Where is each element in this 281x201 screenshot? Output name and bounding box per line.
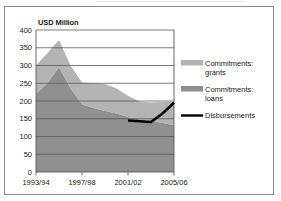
chart-plot: 0501001502002503003504001993/941997/9820… <box>0 0 281 201</box>
legend-item-0: Commitments:grants <box>181 59 253 77</box>
ytick-label-400: 400 <box>19 26 32 35</box>
ytick-label-250: 250 <box>19 79 32 88</box>
legend-item-1: Commitments:loans <box>181 85 253 103</box>
ytick-label-350: 350 <box>19 43 32 52</box>
legend-label-1-line2: loans <box>205 94 223 103</box>
ytick-label-0: 0 <box>28 168 32 177</box>
legend-label-1: Commitments: <box>205 85 253 94</box>
ytick-label-150: 150 <box>19 114 32 123</box>
legend-item-2: Disbursements <box>181 111 255 120</box>
ytick-label-50: 50 <box>24 150 32 159</box>
xtick-label-1: 1997/98 <box>68 178 95 187</box>
xtick-label-3: 2005/06 <box>160 178 187 187</box>
ytick-label-100: 100 <box>19 132 32 141</box>
ytick-label-200: 200 <box>19 97 32 106</box>
legend-label-0-line2: grants <box>205 68 226 77</box>
legend-label-0: Commitments: <box>205 59 253 68</box>
legend-swatch-area-1 <box>181 86 203 92</box>
legend-swatch-area-0 <box>181 60 203 66</box>
xtick-label-2: 2001/02 <box>114 178 141 187</box>
chart-figure: USD Million 0501001502002503003504001993… <box>0 0 281 201</box>
ytick-label-300: 300 <box>19 61 32 70</box>
legend-label-2: Disbursements <box>205 111 255 120</box>
xtick-label-0: 1993/94 <box>22 178 49 187</box>
